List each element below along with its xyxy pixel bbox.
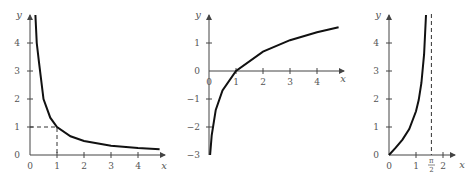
x-tick-label: 3 xyxy=(287,77,293,87)
x-tick-label-pi-den: 2 xyxy=(429,166,433,174)
y-tick-label: −3 xyxy=(187,150,201,160)
x-tick-label-pi-num: π xyxy=(429,157,434,165)
x-tick-label: 1 xyxy=(54,161,60,171)
y-tick-label: 1 xyxy=(14,122,20,132)
y-tick-label: 2 xyxy=(14,94,20,104)
x-tick-label: 0 xyxy=(206,77,212,87)
y-tick-label: 4 xyxy=(14,38,20,48)
y-axis-label: y xyxy=(194,9,201,20)
y-tick-label: 0 xyxy=(194,66,200,76)
x-axis-label: x xyxy=(459,159,465,170)
chart-reciprocal: 0 1 2 3 4 0 1 2 3 4 x y xyxy=(14,9,167,171)
x-tick-label: 4 xyxy=(314,77,320,87)
chart-logarithm: 0 1 2 3 4 −3 −2 −1 0 1 x y xyxy=(187,9,346,160)
y-tick-label: −2 xyxy=(187,122,200,132)
x-tick-label: 3 xyxy=(108,161,114,171)
x-tick-label: 2 xyxy=(260,77,266,87)
logarithm-curve xyxy=(210,27,339,155)
x-axis-label: x xyxy=(340,73,346,84)
x-tick-label: 4 xyxy=(135,161,141,171)
tangent-curve xyxy=(389,15,426,155)
x-tick-label: 2 xyxy=(81,161,87,171)
y-tick-label: 0 xyxy=(373,150,379,160)
x-tick-label: 0 xyxy=(27,161,33,171)
y-tick-label: 1 xyxy=(373,122,379,132)
x-tick-label: 1 xyxy=(413,161,419,171)
y-tick-label: 4 xyxy=(373,38,379,48)
y-axis-label: y xyxy=(374,9,381,20)
guide-lines xyxy=(30,127,57,155)
x-tick-label: 0 xyxy=(386,161,392,171)
x-axis-label: x xyxy=(161,160,167,171)
reciprocal-curve xyxy=(35,15,159,149)
y-tick-label: 3 xyxy=(14,66,20,76)
y-tick-label: 2 xyxy=(373,94,379,104)
y-tick-label: 0 xyxy=(14,150,20,160)
y-axis-label: y xyxy=(15,9,22,20)
x-tick-label: 2 xyxy=(440,161,446,171)
y-tick-label: 1 xyxy=(194,38,200,48)
figure: 0 1 2 3 4 0 1 2 3 4 x y 0 1 2 3 4 −3 −2 … xyxy=(0,0,474,179)
x-tick-label: 1 xyxy=(233,77,239,87)
chart-tangent: 0 1 2 π 2 0 1 2 3 4 x y xyxy=(373,9,465,174)
y-tick-label: −1 xyxy=(187,94,200,104)
y-tick-label: 3 xyxy=(373,66,379,76)
